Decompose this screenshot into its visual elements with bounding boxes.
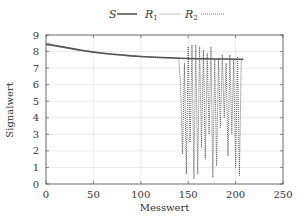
- x-tick-label: 100: [131, 189, 150, 200]
- plot-area: [46, 43, 243, 179]
- line-chart: SR1R2 0123456789050100150200250 Messwert…: [0, 0, 306, 218]
- y-tick-label: 5: [33, 96, 39, 107]
- y-tick-label: 1: [33, 162, 39, 173]
- legend-label: R2: [184, 8, 198, 22]
- axis-ticks: 0123456789050100150200250: [33, 30, 293, 201]
- series-r2: [46, 43, 243, 179]
- legend-item-r1: R1: [144, 8, 180, 22]
- x-tick-label: 150: [179, 189, 198, 200]
- legend-label: R1: [144, 8, 158, 22]
- x-tick-label: 50: [87, 189, 100, 200]
- y-tick-label: 4: [33, 112, 39, 123]
- legend-item-r2: R2: [184, 8, 225, 22]
- y-tick-label: 7: [33, 63, 39, 74]
- y-tick-label: 6: [33, 79, 39, 90]
- x-tick-label: 0: [43, 189, 49, 200]
- y-tick-label: 0: [33, 179, 39, 190]
- legend: SR1R2: [109, 8, 225, 22]
- y-tick-label: 8: [33, 46, 39, 57]
- y-tick-label: 3: [33, 129, 39, 140]
- y-tick-label: 2: [33, 145, 39, 156]
- x-tick-label: 250: [273, 189, 292, 200]
- y-axis-label: Signalwert: [4, 82, 15, 137]
- x-axis-label: Messwert: [140, 202, 190, 213]
- y-tick-label: 9: [33, 30, 39, 41]
- legend-item-s: S: [109, 8, 137, 21]
- legend-label: S: [109, 8, 117, 21]
- x-tick-label: 200: [226, 189, 245, 200]
